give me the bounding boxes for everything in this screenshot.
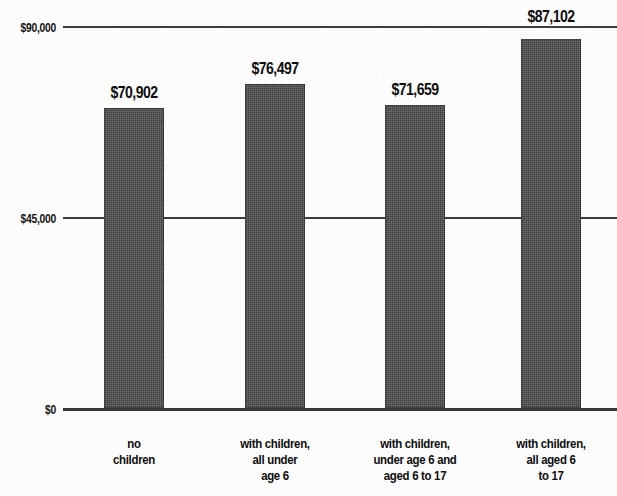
bar-all-under-age-6: [245, 84, 305, 408]
axis-baseline-0: [63, 408, 617, 411]
bar-all-aged-6-to-17: [521, 39, 581, 408]
gridline-90000: [63, 26, 617, 28]
y-axis-tick-90000: $90,000: [8, 21, 56, 35]
bar-value-label-all-aged-6-to-17: $87,102: [503, 8, 600, 26]
y-axis-tick-45000: $45,000: [8, 212, 56, 226]
x-axis-label-all-under-age-6: with children, all under age 6: [213, 436, 336, 484]
bar-chart: $90,000 $45,000 $0 $70,902 $76,497 $71,6…: [0, 0, 617, 496]
x-axis-label-all-aged-6-to-17: with children, all aged 6 to 17: [489, 436, 612, 484]
x-axis-label-under-6-and-6-to-17: with children, under age 6 and aged 6 to…: [349, 436, 481, 484]
y-axis-tick-0: $0: [8, 403, 56, 417]
bar-value-label-under-6-and-6-to-17: $71,659: [367, 81, 464, 99]
bar-value-label-no-children: $70,902: [86, 84, 183, 102]
bar-no-children: [104, 108, 164, 408]
bar-under-6-and-6-to-17: [385, 105, 445, 408]
bar-value-label-all-under-age-6: $76,497: [227, 60, 324, 78]
x-axis-label-no-children: no children: [72, 436, 195, 468]
